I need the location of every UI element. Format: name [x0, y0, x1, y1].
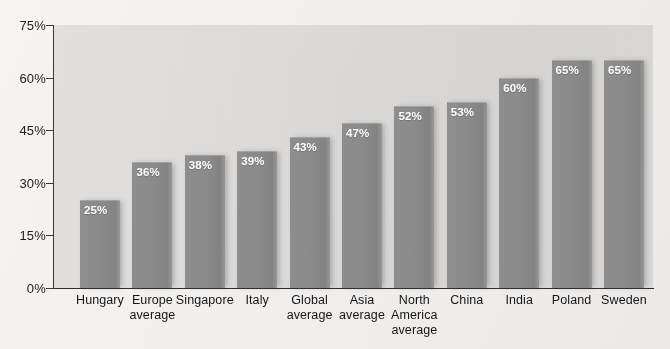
bar — [552, 60, 592, 288]
bar-value-label: 47% — [346, 128, 369, 140]
x-axis-line — [53, 288, 654, 289]
y-axis-tick-label-wrap: 30% — [0, 177, 46, 190]
y-axis-tick-label: 60% — [4, 72, 46, 85]
bar-chart: 0%15%30%45%60%75% 25%36%38%39%43%47%52%5… — [0, 0, 670, 349]
bar-value-label: 60% — [503, 83, 526, 95]
bar-value-label: 53% — [451, 107, 474, 119]
y-axis-line — [53, 25, 54, 289]
y-axis-tick-label: 30% — [4, 177, 46, 190]
y-axis-tick-label-wrap: 0% — [0, 282, 46, 295]
y-axis-tick-label-wrap: 15% — [0, 229, 46, 242]
bar — [499, 78, 539, 288]
bar-value-label: 52% — [398, 111, 421, 123]
y-axis-tick-mark — [46, 78, 54, 79]
category-label: Sweden — [590, 293, 658, 308]
bar — [342, 123, 382, 288]
y-axis-tick-label-wrap: 45% — [0, 124, 46, 137]
bar-value-label: 65% — [556, 65, 579, 77]
bar-value-label: 38% — [189, 160, 212, 172]
y-axis-tick-label: 0% — [4, 282, 46, 295]
bar-value-label: 65% — [608, 65, 631, 77]
bar-value-label: 36% — [136, 167, 159, 179]
y-axis-tick-label-wrap: 60% — [0, 72, 46, 85]
y-axis-tick-mark — [46, 288, 54, 289]
y-axis-tick-mark — [46, 235, 54, 236]
bar — [604, 60, 644, 288]
bar — [290, 137, 330, 288]
bar-value-label: 25% — [84, 205, 107, 217]
y-axis-tick-label: 15% — [4, 229, 46, 242]
bar — [237, 151, 277, 288]
bar — [185, 155, 225, 288]
y-axis-tick-label-wrap: 75% — [0, 19, 46, 32]
y-axis-tick-mark — [46, 183, 54, 184]
bar — [132, 162, 172, 288]
bar — [394, 106, 434, 288]
bar — [447, 102, 487, 288]
y-axis-tick-mark — [46, 130, 54, 131]
y-axis-tick-label: 45% — [4, 124, 46, 137]
y-axis-tick-label: 75% — [4, 19, 46, 32]
bar-value-label: 43% — [294, 142, 317, 154]
bar-value-label: 39% — [241, 156, 264, 168]
y-axis-tick-mark — [46, 25, 54, 26]
